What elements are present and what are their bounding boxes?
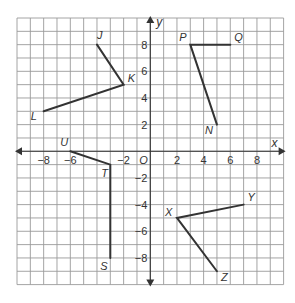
- y-tick-label: 6: [141, 65, 147, 77]
- point-label-u: U: [60, 136, 68, 148]
- y-tick-label: 2: [141, 119, 147, 131]
- point-label-x: X: [164, 206, 173, 218]
- coordinate-plane: −8−6−224688642−2−4−6−8Oxy JKLPQNUTSXYZ: [0, 0, 295, 303]
- y-axis-up-arrow-icon: [146, 16, 154, 23]
- x-tick-label: 8: [254, 154, 260, 166]
- y-tick-label: 4: [141, 92, 147, 104]
- angle-YXZ: [177, 205, 244, 272]
- y-tick-label: −2: [135, 172, 148, 184]
- x-tick-label: −2: [117, 154, 130, 166]
- x-tick-label: 6: [227, 154, 233, 166]
- point-label-s: S: [100, 260, 108, 272]
- x-tick-label: −6: [64, 154, 77, 166]
- x-axis-right-arrow-icon: [279, 147, 286, 155]
- point-label-t: T: [101, 167, 109, 179]
- x-tick-label: −8: [37, 154, 50, 166]
- point-label-l: L: [31, 110, 37, 122]
- point-label-n: N: [205, 124, 213, 136]
- axes: [15, 16, 286, 287]
- y-tick-label: −8: [135, 252, 148, 264]
- point-label-k: K: [128, 72, 136, 84]
- origin-label: O: [139, 154, 148, 166]
- point-label-q: Q: [234, 31, 243, 43]
- y-tick-label: −6: [135, 225, 148, 237]
- y-axis-label: y: [155, 15, 163, 29]
- tick-labels: −8−6−224688642−2−4−6−8Oxy: [37, 15, 278, 264]
- y-tick-label: −4: [135, 199, 148, 211]
- point-label-j: J: [96, 29, 103, 41]
- point-label-z: Z: [220, 271, 229, 283]
- y-axis-down-arrow-icon: [146, 280, 154, 287]
- x-axis-label: x: [271, 136, 279, 150]
- x-axis-left-arrow-icon: [15, 147, 22, 155]
- x-tick-label: 2: [174, 154, 180, 166]
- point-label-p: P: [179, 31, 187, 43]
- y-tick-label: 8: [141, 39, 147, 51]
- point-label-y: Y: [248, 191, 256, 203]
- x-tick-label: 4: [201, 154, 207, 166]
